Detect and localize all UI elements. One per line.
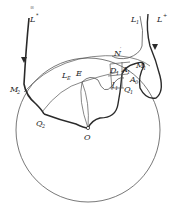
svg-text:1: 1	[130, 89, 133, 95]
label-M2: M 2	[9, 85, 20, 95]
line-E-O-right	[82, 82, 88, 128]
label-L1: L 1	[130, 15, 139, 25]
topology-diagram: ∞ L * L 1 L + N ′ M 1 M 2 D 1 A 1 A 0 l …	[0, 0, 176, 210]
svg-text:′: ′	[120, 46, 122, 52]
svg-text:1: 1	[143, 65, 146, 71]
svg-text:1: 1	[116, 70, 119, 76]
svg-text:1: 1	[115, 85, 118, 91]
label-D1: D 1	[109, 66, 119, 76]
svg-text:∞: ∞	[30, 4, 34, 10]
label-l1: l 1	[112, 81, 118, 91]
svg-text:+: +	[163, 12, 167, 18]
svg-text:L: L	[156, 15, 162, 24]
label-Q2: Q 2	[36, 119, 45, 129]
svg-text:E: E	[75, 69, 82, 78]
svg-text:O: O	[84, 133, 91, 142]
inner-arc-LE	[42, 72, 118, 112]
label-A0: A 0	[129, 75, 139, 85]
svg-text:*: *	[36, 12, 39, 18]
svg-text:0: 0	[135, 79, 139, 85]
label-E: E	[75, 69, 82, 78]
label-L-star-left: ∞ L *	[29, 4, 39, 24]
label-O: O	[84, 133, 91, 142]
point-O	[86, 126, 89, 129]
label-LE: L E	[61, 71, 71, 81]
label-L-plus: L +	[156, 12, 167, 24]
arrow-right	[152, 44, 158, 50]
label-N-prime: N ′	[113, 46, 122, 58]
svg-text:2: 2	[41, 123, 45, 129]
svg-text:E: E	[66, 75, 71, 81]
svg-text:2: 2	[16, 89, 20, 95]
svg-text:L: L	[29, 15, 35, 24]
curve-L-star-left	[24, 18, 44, 114]
svg-text:1: 1	[136, 19, 139, 25]
label-Q1: Q 1	[124, 85, 133, 95]
